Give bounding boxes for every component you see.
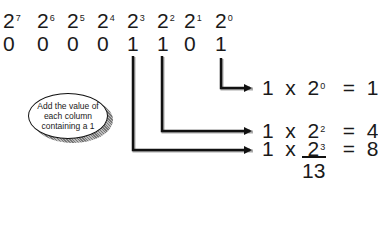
arrow-bit-3 xyxy=(133,56,253,151)
sum-total: 13 xyxy=(302,160,325,181)
callout-bubble: Add the value of each column containing … xyxy=(28,93,112,143)
arrow-bit-0 xyxy=(221,58,253,89)
equation-bit-0: 1 x 20 = 1 xyxy=(262,77,378,98)
callout-text: Add the value of each column containing … xyxy=(28,93,108,139)
arrow-bit-2 xyxy=(162,56,253,132)
sum-underline xyxy=(302,156,326,158)
